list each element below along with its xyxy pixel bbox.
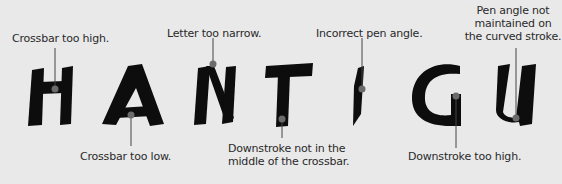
calligraphy-errors-diagram: Crossbar too high. Crossbar too low. Let… xyxy=(0,0,562,184)
marker-dot-u xyxy=(513,115,520,122)
marker-dot-i xyxy=(359,86,366,93)
marker-dot-g xyxy=(453,93,460,100)
marker-dot-n xyxy=(210,61,217,68)
marker-dot-h xyxy=(52,86,59,93)
marker-dot-t xyxy=(279,116,286,123)
marker-dot-a xyxy=(128,112,135,119)
letter-n xyxy=(194,66,236,125)
letter-t xyxy=(265,63,313,127)
annotation-i: Incorrect pen angle. xyxy=(316,27,422,40)
annotation-h: Crossbar too high. xyxy=(12,32,109,45)
annotation-g: Downstroke too high. xyxy=(408,150,521,163)
annotation-u: Pen angle not maintained on the curved s… xyxy=(460,4,562,43)
annotation-n: Letter too narrow. xyxy=(167,27,261,40)
letter-h xyxy=(28,66,73,126)
annotation-a: Crossbar too low. xyxy=(80,150,171,163)
annotation-t: Downstroke not in the middle of the cros… xyxy=(228,142,338,168)
